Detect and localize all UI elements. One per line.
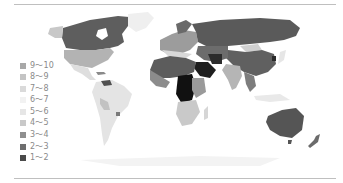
legend-swatch (20, 74, 26, 80)
region-japan (278, 50, 286, 64)
region-iran (208, 54, 222, 64)
region-east-africa (192, 78, 206, 98)
region-arabia (194, 62, 216, 78)
legend-label: 1～2 (30, 153, 49, 163)
legend-item-8-9: 8～9 (20, 72, 54, 83)
legend-swatch (20, 97, 26, 103)
region-madagascar (204, 106, 208, 120)
legend-swatch (20, 132, 26, 138)
legend-item-9-10: 9～10 (20, 60, 54, 71)
region-australia (266, 108, 304, 138)
legend-label: 8～9 (30, 72, 49, 82)
legend-label: 3～4 (30, 130, 49, 140)
legend-swatch (20, 86, 26, 92)
top-divider (14, 4, 336, 5)
region-caribbean (96, 72, 106, 75)
legend-swatch (20, 155, 26, 161)
legend-swatch (20, 120, 26, 126)
legend-label: 2～3 (30, 142, 49, 152)
region-russia (192, 18, 300, 48)
legend-label: 5～6 (30, 107, 49, 117)
region-southern-africa (176, 100, 200, 126)
region-korea (272, 56, 276, 61)
region-south-america (92, 80, 132, 146)
legend-label: 9～10 (30, 61, 54, 71)
region-tasmania (288, 140, 292, 144)
legend: 9～10 8～9 7～8 6～7 5～6 4～5 3～4 2～3 1～2 (20, 60, 54, 164)
bottom-divider (14, 178, 336, 179)
legend-label: 6～7 (30, 95, 49, 105)
legend-swatch (20, 144, 26, 150)
legend-item-1-2: 1～2 (20, 153, 54, 164)
legend-item-3-4: 3～4 (20, 130, 54, 141)
legend-item-4-5: 4～5 (20, 118, 54, 129)
legend-item-2-3: 2～3 (20, 141, 54, 152)
region-indonesia (254, 94, 290, 102)
legend-swatch (20, 63, 26, 69)
legend-label: 7～8 (30, 84, 49, 94)
legend-swatch (20, 109, 26, 115)
legend-item-7-8: 7～8 (20, 83, 54, 94)
region-paraguay (116, 112, 120, 116)
region-antarctica (80, 156, 280, 166)
region-new-zealand (308, 134, 320, 148)
legend-item-5-6: 5～6 (20, 106, 54, 117)
region-alaska (48, 26, 63, 38)
region-greenland (128, 12, 154, 32)
legend-item-6-7: 6～7 (20, 95, 54, 106)
legend-label: 4～5 (30, 118, 49, 128)
region-india (222, 64, 242, 90)
